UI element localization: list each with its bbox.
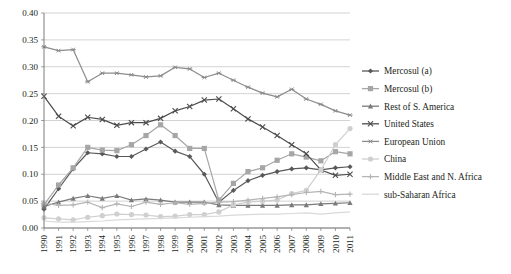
data-point	[231, 106, 236, 111]
data-point	[289, 151, 294, 156]
data-point	[216, 71, 221, 75]
x-axis-label: 2005	[258, 235, 268, 254]
legend-item-label: sub-Saharan Africa	[384, 190, 456, 200]
series-line	[44, 47, 350, 115]
data-point	[368, 86, 373, 91]
data-point	[304, 165, 309, 170]
data-point	[347, 126, 352, 131]
data-point	[173, 65, 178, 69]
data-point	[129, 142, 134, 147]
x-axis-label: 1995	[112, 235, 122, 254]
x-axis-label: 1994	[97, 235, 107, 254]
chart-legend: Mercosul (a)Mercosul (b)Rest of S. Ameri…	[362, 66, 482, 199]
data-point	[347, 151, 352, 156]
data-series	[41, 45, 352, 222]
data-point	[158, 74, 163, 78]
data-point	[158, 202, 163, 207]
data-point	[129, 154, 134, 159]
legend-item-mercosul-b[interactable]: Mercosul (b)	[362, 84, 432, 95]
x-axis-label: 1993	[83, 235, 93, 254]
y-axis-label: 0.10	[22, 169, 38, 179]
legend-item-label: China	[384, 154, 406, 164]
data-point	[347, 113, 352, 117]
data-point	[114, 71, 119, 75]
data-point	[333, 109, 338, 113]
data-point	[129, 212, 134, 217]
legend-item-united-states[interactable]: United States	[362, 119, 434, 129]
data-point	[333, 149, 338, 154]
data-point	[71, 165, 76, 170]
x-axis-label: 2011	[345, 235, 355, 253]
data-point	[187, 212, 192, 217]
data-point	[347, 192, 352, 197]
y-axis-label: 0.15	[22, 143, 38, 153]
series-line	[44, 96, 350, 175]
legend-item-rest-of-s-america[interactable]: Rest of S. America	[362, 102, 454, 112]
data-point	[129, 73, 134, 77]
data-point	[368, 68, 373, 73]
x-axis-label: 1996	[127, 235, 137, 254]
data-point	[216, 209, 221, 214]
y-axis-label: 0.00	[22, 223, 38, 233]
legend-item-label: Mercosul (a)	[384, 66, 432, 77]
data-point	[333, 165, 338, 170]
data-point	[318, 167, 323, 172]
legend-item-label: European Union	[384, 137, 446, 147]
data-point	[202, 76, 207, 80]
data-point	[333, 192, 338, 197]
x-axis-labels: 1990199119921993199419951996199719981999…	[39, 235, 355, 254]
y-axis-label: 0.25	[22, 89, 38, 99]
y-axis-label: 0.30	[22, 62, 38, 72]
data-point	[173, 133, 178, 138]
x-axis-label: 1992	[68, 235, 78, 253]
x-axis-label: 1999	[170, 235, 180, 254]
data-point	[114, 154, 119, 159]
legend-item-european-union[interactable]: European Union	[362, 137, 446, 147]
x-axis-label: 1997	[141, 235, 151, 254]
data-point	[245, 169, 250, 174]
data-point	[71, 123, 76, 128]
data-point	[368, 156, 373, 161]
data-point	[347, 164, 352, 169]
series-european-union	[41, 45, 352, 117]
legend-item-mercosul-a[interactable]: Mercosul (a)	[362, 66, 432, 77]
data-point	[289, 166, 294, 171]
data-point	[100, 71, 105, 75]
legend-item-label: United States	[384, 119, 434, 129]
legend-item-middle-east-and-n-africa[interactable]: Middle East and N. Africa	[362, 172, 482, 182]
data-point	[56, 49, 61, 53]
data-point	[56, 216, 61, 221]
data-point	[304, 97, 309, 101]
data-point	[202, 146, 207, 151]
x-axis-label: 2009	[316, 235, 326, 254]
data-point	[100, 213, 105, 218]
y-axis-label: 0.05	[22, 196, 38, 206]
x-axis-label: 1998	[156, 235, 166, 254]
data-point	[289, 142, 294, 147]
data-point	[85, 215, 90, 220]
data-point	[143, 213, 148, 218]
data-point	[231, 181, 236, 186]
legend-item-label: Mercosul (b)	[384, 84, 432, 95]
data-point	[56, 114, 61, 119]
data-point	[231, 78, 236, 82]
y-axis-label: 0.20	[22, 116, 38, 126]
legend-item-label: Rest of S. America	[384, 102, 454, 112]
legend-item-sub-saharan-africa[interactable]: sub-Saharan Africa	[362, 190, 456, 200]
data-point	[275, 95, 280, 99]
y-axis-label: 0.35	[22, 35, 38, 45]
data-point	[187, 146, 192, 151]
data-point	[114, 201, 119, 206]
x-axis-label: 2004	[243, 235, 253, 254]
data-point	[318, 189, 323, 194]
data-point	[85, 200, 90, 205]
x-axis-label: 2007	[287, 235, 297, 254]
x-axis-label: 2008	[301, 235, 311, 254]
data-point	[260, 165, 265, 170]
data-point	[260, 124, 265, 129]
data-point	[100, 147, 105, 152]
data-point	[275, 158, 280, 163]
x-axis-label: 2002	[214, 235, 224, 253]
legend-item-china[interactable]: China	[362, 154, 406, 164]
data-point	[318, 103, 323, 107]
